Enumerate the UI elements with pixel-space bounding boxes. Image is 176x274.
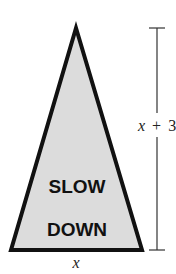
height-label: x + 3 bbox=[137, 117, 176, 134]
sign-text-line1: SLOW bbox=[49, 176, 106, 197]
triangle-shape bbox=[11, 28, 142, 250]
height-label-variable: x bbox=[137, 117, 145, 134]
sign-text-line2: DOWN bbox=[47, 219, 107, 240]
triangle-sign-diagram: SLOW DOWN x + 3 x bbox=[0, 0, 176, 274]
triangle-sign: SLOW DOWN bbox=[11, 28, 142, 250]
base-label: x bbox=[71, 254, 79, 271]
height-label-constant: 3 bbox=[168, 117, 176, 134]
height-dimension: x + 3 bbox=[137, 28, 176, 250]
height-label-operator: + bbox=[152, 117, 161, 134]
